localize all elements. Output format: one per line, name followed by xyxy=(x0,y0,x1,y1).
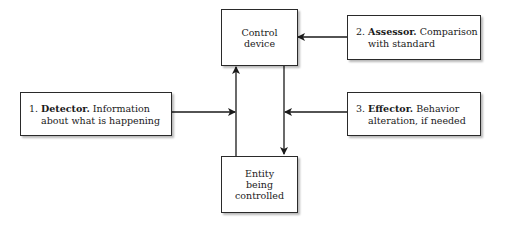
detector-number: 1. xyxy=(29,103,38,114)
effector-number: 3. xyxy=(356,103,365,114)
assessor-title: Assessor. xyxy=(368,26,417,37)
entity-line2: being xyxy=(246,179,273,190)
control-device-box: Control device xyxy=(221,9,298,66)
effector-desc-line2: alteration, if needed xyxy=(356,115,480,127)
effector-box: 3.Effector. Behavior alteration, if need… xyxy=(347,92,481,136)
assessor-number: 2. xyxy=(356,26,365,37)
detector-desc: Information xyxy=(93,103,150,114)
control-device-line1: Control xyxy=(241,27,277,38)
detector-box: 1.Detector. Information about what is ha… xyxy=(20,92,172,136)
effector-title: Effector. xyxy=(368,103,413,114)
control-device-line2: device xyxy=(244,38,275,49)
assessor-box: 2.Assessor. Comparison with standard xyxy=(347,15,481,60)
assessor-desc-line2: with standard xyxy=(356,38,480,50)
effector-desc: Behavior xyxy=(416,103,459,114)
detector-desc-line2: about what is happening xyxy=(29,115,171,127)
entity-line3: controlled xyxy=(235,190,284,201)
entity-line1: Entity xyxy=(245,168,274,179)
assessor-desc: Comparison xyxy=(420,26,478,37)
entity-box: Entity being controlled xyxy=(221,156,298,213)
detector-title: Detector. xyxy=(41,103,90,114)
